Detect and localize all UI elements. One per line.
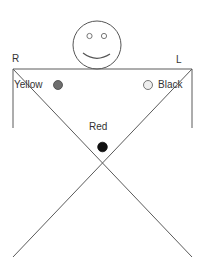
yellow-marker [54,81,63,90]
label-red: Red [89,121,107,132]
label-yellow: Yellow [14,79,43,90]
red-marker [98,142,108,152]
left-eye [87,33,92,38]
face-outline [73,21,121,69]
stick-figure-diagram: R L Yellow Black Red [0,0,204,268]
right-eye [101,33,106,38]
label-r: R [12,53,19,64]
black-marker [144,81,153,90]
label-black: Black [158,79,183,90]
label-l: L [176,54,182,65]
smiley-face [73,21,121,69]
smile [83,53,110,58]
